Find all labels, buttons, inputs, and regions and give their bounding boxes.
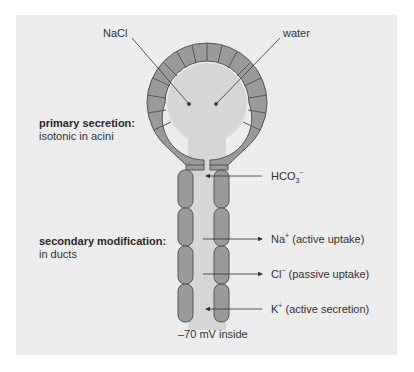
primary-secretion-title: primary secretion: [39,117,135,130]
salivary-gland-diagram [0,0,414,372]
na-label: Na+ (active uptake) [271,233,364,246]
transport-note: (passive uptake) [285,268,369,280]
primary-secretion-subtitle: isotonic in acini [39,130,114,143]
ion-subscript: 3 [295,177,299,184]
membrane-potential-label: –70 mV inside [178,328,248,341]
transport-note: (active uptake) [289,233,364,245]
ion-name: Na [271,233,285,245]
ion-charge: − [299,169,303,176]
ion-name: Cl [271,268,281,280]
ion-name: HCO [271,170,295,182]
k-label: K+ (active secretion) [271,303,369,316]
secondary-modification-title: secondary modification: [39,235,166,248]
secondary-modification-subtitle: in ducts [39,248,77,261]
nacl-label: NaCl [103,27,127,40]
water-label: water [283,27,310,40]
transport-note: (active secretion) [282,303,369,315]
cl-label: Cl− (passive uptake) [271,268,369,281]
hco3-label: HCO3− [271,170,303,183]
